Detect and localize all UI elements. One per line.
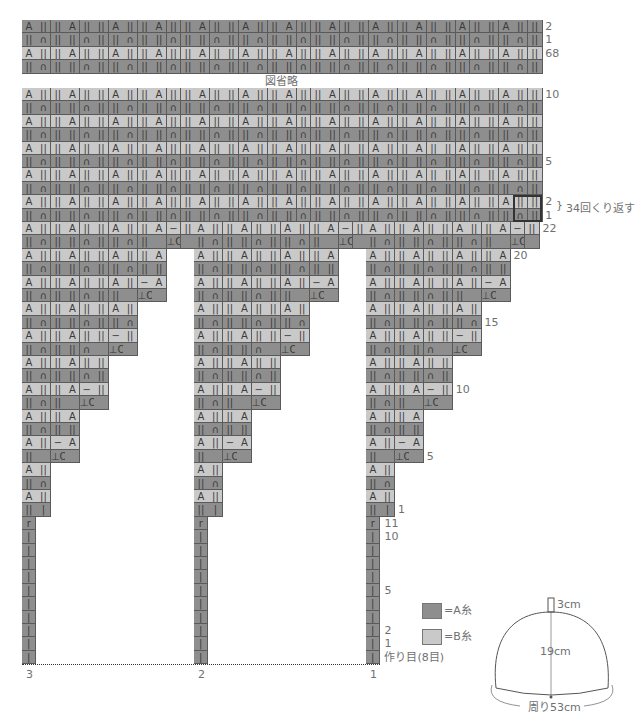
- chart-cell: A: [22, 222, 37, 235]
- chart-cell: −: [395, 436, 410, 449]
- chart-cell: ||: [528, 155, 543, 168]
- chart-cell: ||: [366, 450, 381, 463]
- chart-cell: ||: [138, 128, 153, 141]
- chart-cell: ||: [51, 276, 66, 289]
- chart-cell: ∩: [80, 262, 95, 275]
- chart-cell: ||: [441, 195, 456, 208]
- chart-cell: ∩: [36, 316, 51, 329]
- chart-cell: A: [195, 115, 210, 128]
- chart-cell: ||: [237, 289, 252, 302]
- chart-cell: ||: [94, 128, 109, 141]
- chart-cell: |: [22, 557, 36, 570]
- chart-cell: [324, 289, 339, 302]
- chart-cell: ||: [470, 142, 485, 155]
- chart-cell: ||: [152, 182, 167, 195]
- chart-cell: A: [324, 249, 339, 262]
- chart-cell: ||: [167, 195, 182, 208]
- chart-cell: ||: [253, 47, 268, 60]
- chart-cell: A: [281, 249, 296, 262]
- chart-cell: ||: [224, 60, 239, 73]
- chart-cell: ||: [366, 396, 381, 409]
- row-label: 1: [545, 33, 552, 46]
- chart-cell: ||: [208, 302, 223, 315]
- chart-cell: ||: [366, 477, 381, 490]
- chart-cell: [266, 343, 281, 356]
- chart-cell: ⊥O⊥: [281, 343, 296, 356]
- row-label: 10: [545, 88, 559, 101]
- chart-cell: ||: [36, 222, 51, 235]
- chart-cell: ||: [484, 209, 499, 222]
- chart-cell: A: [22, 329, 37, 342]
- row-label: 2: [545, 20, 552, 33]
- chart-cell: ||: [94, 302, 109, 315]
- chart-cell: ∩: [252, 343, 267, 356]
- chart-cell: ||: [281, 289, 296, 302]
- chart-cell: |: [194, 544, 208, 557]
- chart-cell: A: [496, 222, 511, 235]
- chart-cell: |: [22, 637, 36, 650]
- chart-cell: A: [152, 195, 167, 208]
- chart-cell: ||: [65, 33, 80, 46]
- chart-cell: A: [412, 142, 427, 155]
- chart-cell: ||: [239, 182, 254, 195]
- chart-cell: ||: [109, 209, 124, 222]
- chart-cell: A: [366, 356, 381, 369]
- chart-cell: ||: [297, 47, 312, 60]
- chart-cell: ||: [369, 155, 384, 168]
- chart-cell: ||: [208, 329, 223, 342]
- chart-cell: ||: [51, 142, 66, 155]
- chart-cell: A: [109, 47, 124, 60]
- chart-cell: ||: [22, 101, 37, 114]
- chart-cell: ||: [297, 115, 312, 128]
- chart-cell: |: [366, 624, 380, 637]
- chart-cell: A: [325, 47, 340, 60]
- chart-cell: ||: [123, 20, 138, 33]
- chart-cell: ||: [167, 47, 182, 60]
- chart-cell: ||: [441, 142, 456, 155]
- chart-cell: ||: [297, 195, 312, 208]
- chart-cell: ||: [325, 209, 340, 222]
- chart-cell: ||: [22, 450, 37, 463]
- chart-cell: [525, 235, 540, 248]
- chart-cell: ||: [94, 316, 109, 329]
- chart-cell: ||: [354, 101, 369, 114]
- chart-cell: |: [36, 503, 51, 516]
- chart-cell: ||: [412, 128, 427, 141]
- chart-cell: A: [22, 142, 37, 155]
- chart-cell: ||: [51, 33, 66, 46]
- chart-cell: ||: [94, 115, 109, 128]
- chart-cell: ||: [311, 60, 326, 73]
- chart-cell: A: [109, 115, 124, 128]
- chart-cell: A: [366, 463, 381, 476]
- chart-cell: ∩: [297, 101, 312, 114]
- chart-cell: ∩: [208, 396, 223, 409]
- chart-cell: ||: [195, 209, 210, 222]
- chart-cell: ||: [295, 302, 310, 315]
- chart-cell: ||: [354, 115, 369, 128]
- chart-cell: ∩: [210, 60, 225, 73]
- chart-cell: A: [453, 302, 468, 315]
- chart-cell: ∩: [210, 101, 225, 114]
- chart-cell: ∩: [167, 209, 182, 222]
- chart-cell: ||: [295, 249, 310, 262]
- chart-cell: |: [194, 530, 208, 543]
- chart-cell: ||: [65, 155, 80, 168]
- row-label: 1: [398, 503, 405, 516]
- chart-cell: ||: [295, 329, 310, 342]
- chart-cell: ||: [412, 60, 427, 73]
- chart-cell: ||: [398, 33, 413, 46]
- chart-cell: ∩: [36, 235, 51, 248]
- chart-cell: ||: [138, 155, 153, 168]
- chart-cell: ∩: [123, 235, 138, 248]
- chart-cell: ||: [310, 262, 325, 275]
- chart-cell: |: [366, 637, 380, 650]
- chart-cell: ∩: [80, 235, 95, 248]
- chart-cell: ||: [395, 329, 410, 342]
- chart-cell: ||: [398, 115, 413, 128]
- chart-cell: ||: [138, 262, 153, 275]
- chart-cell: ||: [441, 115, 456, 128]
- chart-cell: ||: [354, 182, 369, 195]
- chart-cell: ||: [94, 383, 109, 396]
- chart-cell: A: [237, 329, 252, 342]
- chart-cell: A: [281, 222, 296, 235]
